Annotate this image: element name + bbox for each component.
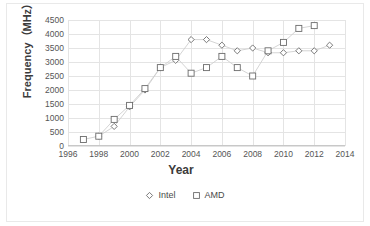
series-plot [68, 20, 345, 146]
legend-item-intel[interactable]: Intel [145, 190, 175, 200]
data-point-diamond-marker [296, 48, 302, 54]
y-axis-tick-label: 4500 [30, 16, 64, 25]
data-point-square-marker [142, 86, 148, 92]
square-marker-icon [192, 191, 201, 200]
data-point-square-marker [296, 25, 302, 31]
data-point-diamond-marker [311, 48, 317, 54]
data-point-diamond-marker [280, 50, 286, 56]
data-point-square-marker [219, 53, 225, 59]
data-point-square-marker [204, 65, 210, 71]
x-axis-tick-label: 2014 [325, 150, 365, 159]
series-line-amd [83, 26, 314, 140]
data-point-square-marker [173, 53, 179, 59]
y-axis-tick-label: 1000 [30, 114, 64, 123]
y-axis-tick-label: 500 [30, 128, 64, 137]
chart-legend: IntelAMD [0, 190, 370, 200]
diamond-marker-icon [145, 191, 154, 200]
x-axis-title: Year [56, 163, 306, 177]
data-point-square-marker [127, 102, 133, 108]
y-axis-tick-label: 4000 [30, 30, 64, 39]
data-point-diamond-marker [203, 37, 209, 43]
data-point-square-marker [157, 65, 163, 71]
x-axis-tick-labels: 1996199820002002200420062008201020122014 [68, 150, 345, 162]
gridline-horizontal [68, 146, 345, 147]
data-point-square-marker [80, 136, 86, 142]
plot-area [68, 20, 345, 146]
legend-item-amd[interactable]: AMD [192, 190, 225, 200]
y-axis-tick-label: 3000 [30, 58, 64, 67]
data-point-square-marker [311, 23, 317, 29]
legend-label: Intel [158, 190, 175, 200]
y-axis-tick-label: 3500 [30, 44, 64, 53]
data-point-diamond-marker [250, 45, 256, 51]
chart-figure: Frequency（MHz） 0500100015002000250030003… [0, 0, 370, 226]
data-point-square-marker [234, 65, 240, 71]
y-axis-tick-labels: 050010001500200025003000350040004500 [28, 20, 64, 146]
data-point-square-marker [265, 48, 271, 54]
data-point-square-marker [250, 73, 256, 79]
y-axis-tick-label: 2000 [30, 86, 64, 95]
y-axis-tick-label: 2500 [30, 72, 64, 81]
data-point-diamond-marker [219, 42, 225, 48]
y-axis-tick-label: 1500 [30, 100, 64, 109]
series-line-intel [99, 40, 330, 137]
data-point-square-marker [111, 116, 117, 122]
data-point-square-marker [188, 70, 194, 76]
legend-label: AMD [205, 190, 225, 200]
data-point-diamond-marker [327, 42, 333, 48]
data-point-diamond-marker [234, 48, 240, 54]
data-point-square-marker [96, 133, 102, 139]
data-point-square-marker [280, 39, 286, 45]
gridline-vertical [345, 20, 346, 146]
